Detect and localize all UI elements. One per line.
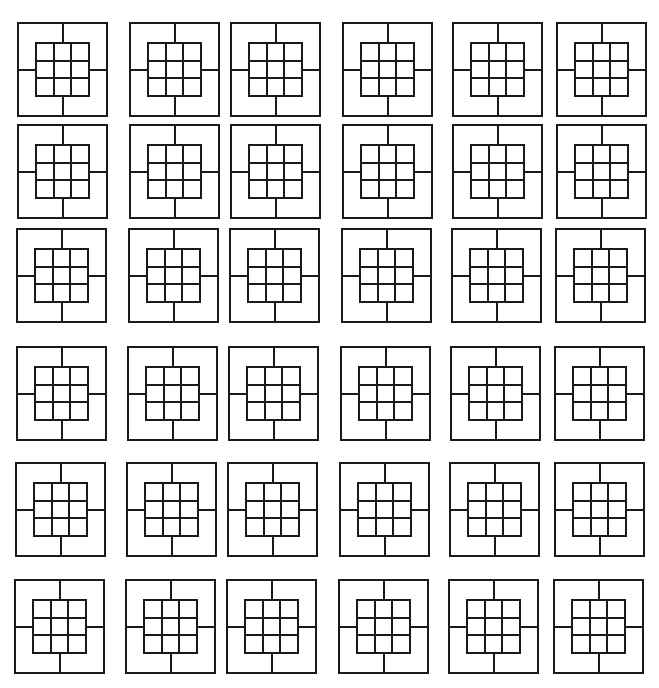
inner-grid — [573, 483, 626, 536]
inner-grid — [36, 145, 89, 198]
pattern-tile — [449, 580, 538, 673]
pattern-tile — [556, 229, 645, 322]
inner-grid — [471, 43, 524, 96]
inner-grid — [470, 249, 523, 302]
pattern-tile — [555, 463, 644, 556]
pattern-tile — [227, 580, 316, 673]
pattern-tile — [128, 347, 217, 440]
inner-grid — [35, 249, 88, 302]
pattern-tile — [15, 580, 104, 673]
pattern-tile — [17, 347, 106, 440]
inner-grid — [358, 483, 411, 536]
pattern-tile — [554, 580, 643, 673]
inner-grid — [467, 600, 520, 653]
inner-grid — [248, 249, 301, 302]
pattern-tile — [340, 463, 429, 556]
pattern-tile — [453, 125, 542, 218]
pattern-tile — [451, 347, 540, 440]
inner-grid — [144, 600, 197, 653]
pattern-tile — [450, 463, 539, 556]
inner-grid — [359, 367, 412, 420]
pattern-tile — [341, 347, 430, 440]
pattern-tile — [129, 229, 218, 322]
inner-grid — [471, 145, 524, 198]
pattern-tile — [18, 125, 107, 218]
inner-grid — [468, 483, 521, 536]
inner-grid — [145, 483, 198, 536]
inner-grid — [575, 43, 628, 96]
inner-grid — [575, 145, 628, 198]
inner-grid — [360, 249, 413, 302]
inner-grid — [147, 249, 200, 302]
pattern-tile — [342, 229, 431, 322]
pattern-tile — [130, 23, 219, 116]
inner-grid — [246, 483, 299, 536]
inner-grid — [36, 43, 89, 96]
inner-grid — [361, 43, 414, 96]
pattern-tile — [127, 463, 216, 556]
pattern-tile — [339, 580, 428, 673]
pattern-tile — [557, 23, 646, 116]
tile-grid-figure — [0, 0, 659, 688]
pattern-tile — [557, 125, 646, 218]
inner-grid — [148, 145, 201, 198]
pattern-tile — [343, 23, 432, 116]
pattern-tile — [343, 125, 432, 218]
inner-grid — [249, 43, 302, 96]
inner-grid — [249, 145, 302, 198]
inner-grid — [572, 600, 625, 653]
inner-grid — [146, 367, 199, 420]
pattern-tile — [231, 125, 320, 218]
pattern-tile — [555, 347, 644, 440]
inner-grid — [35, 367, 88, 420]
pattern-tile — [231, 23, 320, 116]
inner-grid — [33, 600, 86, 653]
pattern-tile — [229, 347, 318, 440]
pattern-tile — [230, 229, 319, 322]
inner-grid — [573, 367, 626, 420]
pattern-tile — [130, 125, 219, 218]
pattern-tile — [126, 580, 215, 673]
inner-grid — [247, 367, 300, 420]
pattern-tile — [453, 23, 542, 116]
pattern-tile — [17, 229, 106, 322]
inner-grid — [148, 43, 201, 96]
inner-grid — [357, 600, 410, 653]
inner-grid — [469, 367, 522, 420]
inner-grid — [574, 249, 627, 302]
pattern-tile — [18, 23, 107, 116]
pattern-tile — [452, 229, 541, 322]
pattern-tile — [16, 463, 105, 556]
inner-grid — [361, 145, 414, 198]
inner-grid — [245, 600, 298, 653]
inner-grid — [34, 483, 87, 536]
pattern-tile — [228, 463, 317, 556]
